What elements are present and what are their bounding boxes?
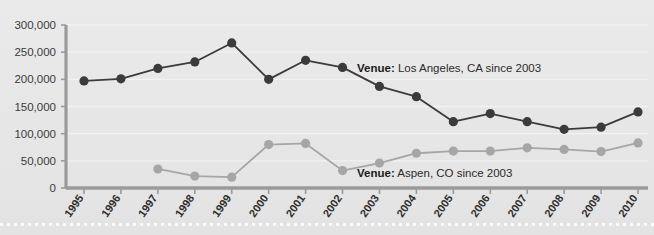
data-point: [486, 146, 495, 155]
data-point: [227, 38, 236, 47]
data-point: [560, 125, 569, 134]
y-tick-label: 50,000: [21, 155, 56, 167]
annotation-value-0: Los Angeles, CA since 2003: [398, 62, 541, 74]
x-tick-label: 2009: [579, 192, 603, 219]
data-point: [523, 117, 532, 126]
y-axis: 050,000100,000150,000200,000250,000300,0…: [14, 19, 66, 194]
y-tick-label: 250,000: [14, 46, 56, 58]
data-point: [449, 146, 458, 155]
data-point: [633, 138, 642, 147]
data-point: [523, 143, 532, 152]
data-point: [412, 149, 421, 158]
data-point: [190, 57, 199, 66]
data-point: [596, 147, 605, 156]
annotation-los-angeles: Venue: Los Angeles, CA since 2003: [357, 62, 541, 74]
data-point: [412, 92, 421, 101]
annotation-label-0: Venue:: [357, 62, 395, 74]
x-tick-label: 2007: [505, 192, 529, 219]
data-point: [301, 56, 310, 65]
data-point: [375, 82, 384, 91]
data-point: [79, 76, 88, 85]
data-point: [338, 166, 347, 175]
data-point: [153, 164, 162, 173]
y-tick-label: 200,000: [14, 73, 56, 85]
data-point: [596, 123, 605, 132]
chart-container: 050,000100,000150,000200,000250,000300,0…: [0, 0, 654, 235]
data-point: [449, 117, 458, 126]
y-tick-label: 300,000: [14, 19, 56, 31]
gridlines: [66, 25, 648, 161]
y-tick-label: 0: [50, 182, 56, 194]
data-point: [301, 139, 310, 148]
dotted-divider: [0, 223, 654, 226]
x-tick-label: 2000: [246, 192, 270, 219]
y-tick-label: 150,000: [14, 101, 56, 113]
x-tick-label: 1999: [209, 192, 233, 219]
x-tick-label: 2004: [394, 192, 418, 220]
x-tick-label: 2005: [431, 192, 455, 219]
line-chart-plot: 050,000100,000150,000200,000250,000300,0…: [0, 0, 654, 235]
data-point: [116, 74, 125, 83]
x-tick-label: 2006: [468, 192, 492, 219]
x-tick-label: 2008: [542, 192, 566, 219]
data-point: [338, 63, 347, 72]
x-tick-label: 2001: [283, 192, 307, 219]
x-tick-label: 1998: [173, 192, 197, 219]
x-tick-label: 2010: [616, 192, 640, 219]
y-tick-label: 100,000: [14, 128, 56, 140]
annotation-label-1: Venue:: [357, 167, 395, 179]
data-point: [190, 171, 199, 180]
data-point: [264, 75, 273, 84]
x-tick-label: 1997: [136, 192, 160, 219]
x-tick-label: 1996: [99, 192, 123, 219]
data-point: [264, 140, 273, 149]
x-tick-label: 1995: [62, 192, 86, 219]
x-tick-label: 2003: [357, 192, 381, 219]
x-axis: 1995199619971998199920002001200220032004…: [62, 188, 648, 219]
annotation-value-1: Aspen, CO since 2003: [397, 167, 512, 179]
data-point: [633, 107, 642, 116]
data-point: [153, 64, 162, 73]
x-tick-label: 2002: [320, 192, 344, 219]
data-point: [486, 109, 495, 118]
annotation-aspen: Venue: Aspen, CO since 2003: [357, 167, 512, 179]
data-point: [227, 173, 236, 182]
data-point: [560, 145, 569, 154]
